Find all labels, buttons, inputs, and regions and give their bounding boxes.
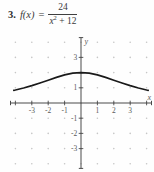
- page: 3. f(x) = 24 x2 + 12 -3-2-112331-1-2-3xy: [0, 0, 154, 172]
- svg-text:2: 2: [112, 106, 116, 115]
- x-axis-label: x: [147, 93, 152, 102]
- svg-text:-3: -3: [71, 144, 77, 153]
- equals-sign: =: [38, 9, 44, 20]
- function-lhs: f(x): [20, 9, 35, 20]
- y-axis-label: y: [84, 37, 89, 46]
- svg-text:1: 1: [73, 83, 77, 92]
- svg-text:-3: -3: [29, 106, 35, 115]
- svg-text:3: 3: [128, 106, 132, 115]
- svg-text:-1: -1: [71, 114, 77, 123]
- svg-text:3: 3: [73, 53, 77, 62]
- fraction: 24 x2 + 12: [48, 2, 77, 27]
- problem-statement: 3. f(x) = 24 x2 + 12: [8, 2, 77, 27]
- denominator-rest: + 12: [59, 16, 76, 26]
- fraction-numerator: 24: [56, 2, 70, 13]
- svg-text:-2: -2: [71, 129, 77, 138]
- problem-number: 3.: [8, 9, 16, 20]
- graph-svg: -3-2-112331-1-2-3xy: [0, 32, 154, 172]
- fraction-denominator: x2 + 12: [48, 16, 77, 27]
- svg-text:1: 1: [96, 106, 100, 115]
- axis-letters: xy: [84, 37, 152, 102]
- svg-text:-2: -2: [45, 106, 51, 115]
- svg-text:-1: -1: [61, 106, 67, 115]
- denominator-exponent: 2: [54, 14, 57, 21]
